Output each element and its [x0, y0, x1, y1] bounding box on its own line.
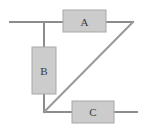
diagonal-wire-group — [44, 22, 133, 112]
circuit-diagram: ABC — [0, 0, 146, 133]
circuit-canvas: ABC — [0, 0, 146, 133]
component-a: A — [63, 10, 106, 32]
component-c: C — [72, 101, 114, 123]
wire-diagonal — [44, 22, 133, 112]
component-a-label: A — [80, 16, 88, 28]
component-b: B — [32, 47, 56, 94]
component-c-label: C — [89, 106, 97, 118]
wire-group — [10, 22, 137, 112]
component-b-label: B — [40, 65, 48, 77]
